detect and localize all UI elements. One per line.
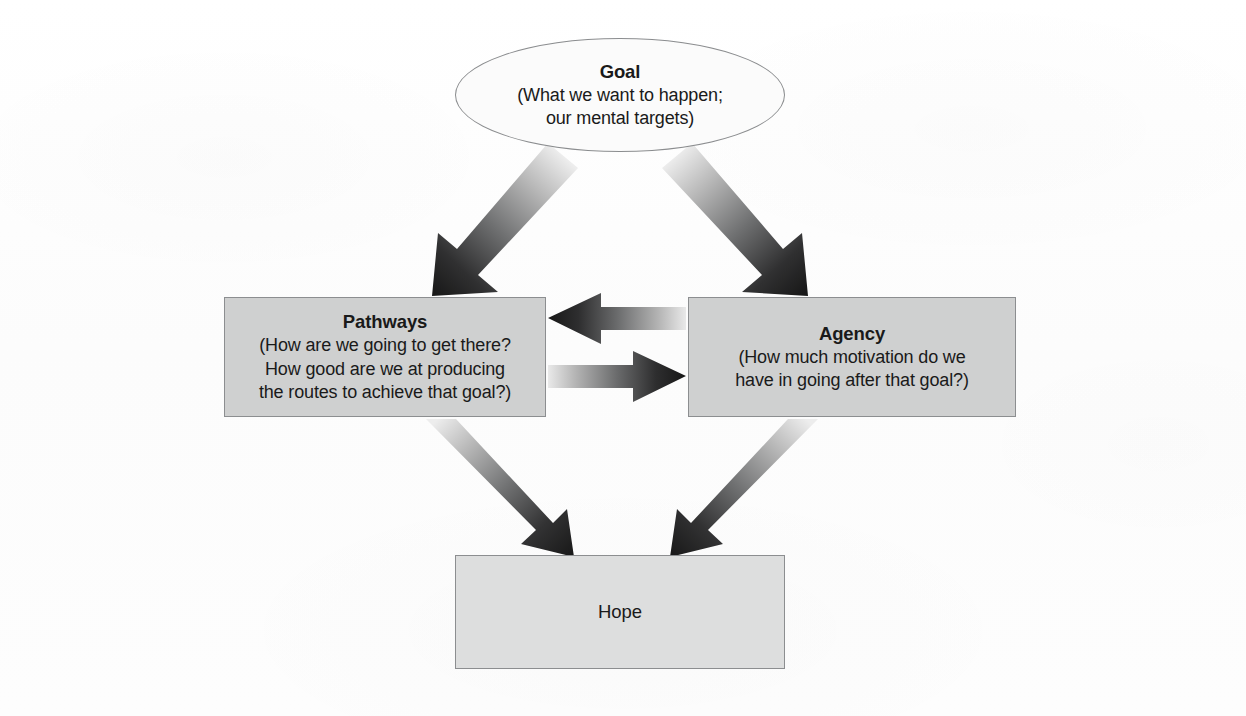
arrow-goal-to-agency <box>662 143 808 296</box>
node-agency-description-line-1: (How much motivation do we <box>735 346 969 369</box>
arrow-agency-to-pathways <box>548 293 686 344</box>
arrow-pathways-to-hope <box>426 419 574 557</box>
node-goal[interactable]: Goal (What we want to happen; our mental… <box>455 38 785 152</box>
node-agency-description: (How much motivation do we have in going… <box>735 346 969 392</box>
node-agency-title: Agency <box>819 322 885 346</box>
node-goal-description-line-2: our mental targets) <box>517 107 723 130</box>
node-goal-title: Goal <box>600 60 641 84</box>
arrow-goal-to-pathways <box>432 143 578 296</box>
diagram-canvas: Goal (What we want to happen; our mental… <box>0 0 1246 716</box>
node-pathways-description: (How are we going to get there? How good… <box>259 334 511 403</box>
node-agency[interactable]: Agency (How much motivation do we have i… <box>688 297 1016 417</box>
node-hope-label: Hope <box>598 600 642 624</box>
node-goal-description: (What we want to happen; our mental targ… <box>517 84 723 130</box>
arrow-pathways-to-agency <box>548 351 686 402</box>
node-pathways-description-line-2: How good are we at producing <box>259 358 511 381</box>
arrow-agency-to-hope <box>670 419 818 557</box>
node-goal-description-line-1: (What we want to happen; <box>517 84 723 107</box>
node-pathways[interactable]: Pathways (How are we going to get there?… <box>224 297 546 417</box>
node-pathways-title: Pathways <box>343 310 428 334</box>
node-agency-description-line-2: have in going after that goal?) <box>735 369 969 392</box>
node-pathways-description-line-3: the routes to achieve that goal?) <box>259 381 511 404</box>
node-pathways-description-line-1: (How are we going to get there? <box>259 334 511 357</box>
node-hope[interactable]: Hope <box>455 555 785 669</box>
